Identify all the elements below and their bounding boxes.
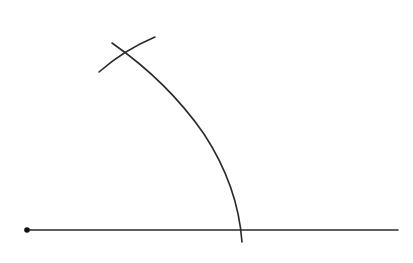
background (0, 0, 413, 263)
construction-diagram (0, 0, 413, 263)
center-point (24, 227, 30, 233)
